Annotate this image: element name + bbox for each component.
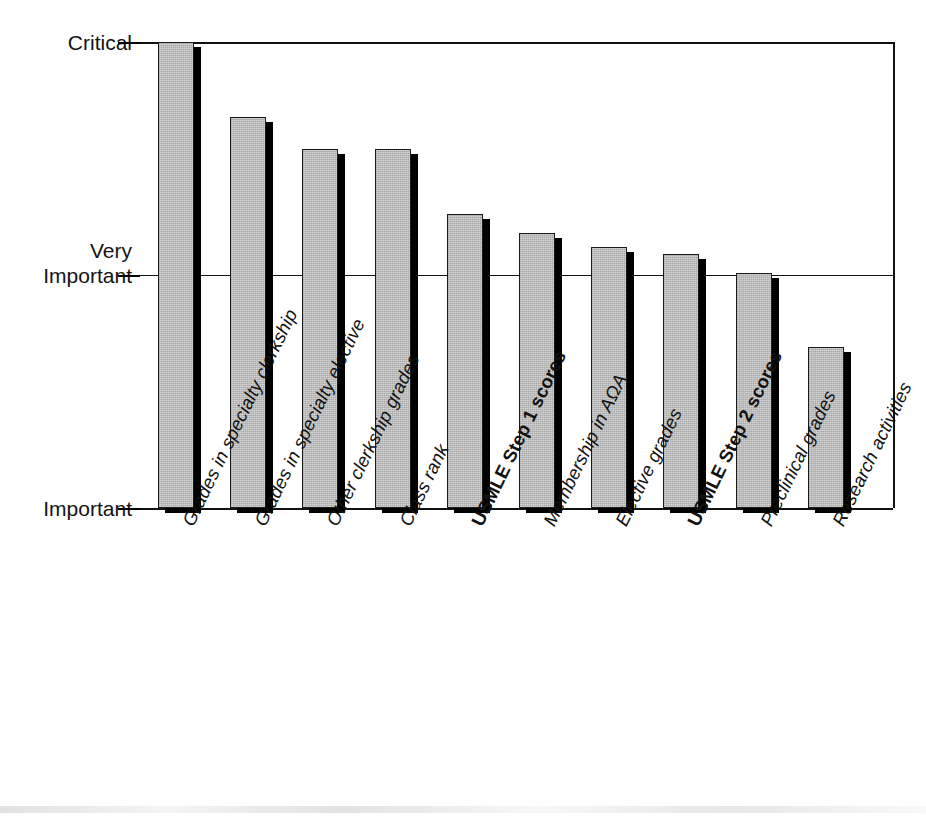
bar [302,143,346,508]
gridline-critical [140,42,893,44]
bar-face [302,149,338,508]
y-axis-tick-mark-very-important [118,275,140,277]
bar-face [158,42,194,508]
bar-chart: Critical Very Important Important Grades… [0,0,926,820]
bar-face [375,149,411,508]
y-axis-label-very-important: Very Important [43,238,132,288]
y-axis-tick-mark-critical [118,42,140,44]
bar-face [663,254,699,508]
bar [158,36,202,508]
bar [663,248,707,508]
bar-face [447,214,483,508]
bar [447,208,491,508]
page-edge-artifact [0,806,926,813]
y-axis-tick-mark-important [118,508,140,510]
axis-right-spine [893,42,895,508]
bar [375,143,419,508]
